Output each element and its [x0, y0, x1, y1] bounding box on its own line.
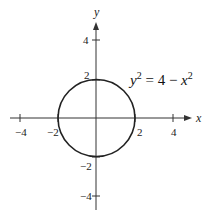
y-tick-label-m4: −4 — [80, 190, 92, 202]
x-axis-label: x — [195, 111, 202, 125]
y-tick-label-4: 4 — [83, 34, 89, 46]
x-tick-label-m4: −4 — [15, 126, 27, 138]
x-tick-label-2: 2 — [137, 126, 143, 138]
y-tick-label-m2: −2 — [80, 160, 92, 172]
circle-graph: x y −4 −2 2 4 4 2 −2 −4 y2 = 4 − x2 — [0, 0, 207, 214]
x-tick-label-4: 4 — [171, 126, 177, 138]
x-tick-label-m2: −2 — [47, 126, 59, 138]
equation-label: y2 = 4 − x2 — [128, 70, 193, 88]
y-axis-label: y — [93, 5, 100, 19]
x-axis-arrow-icon — [184, 115, 192, 121]
y-axis-arrow-icon — [93, 22, 99, 30]
y-tick-label-2: 2 — [84, 69, 90, 81]
